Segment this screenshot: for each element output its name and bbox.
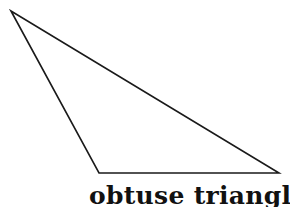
- triangle-caption: obtuse triangle: [89, 181, 290, 207]
- triangle-shape: [11, 11, 279, 173]
- obtuse-triangle-diagram: [0, 0, 290, 207]
